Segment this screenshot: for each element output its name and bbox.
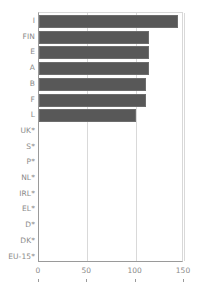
bar-row <box>39 251 182 264</box>
value-tick-label: 100 <box>127 265 141 277</box>
category-label: D* <box>25 218 35 231</box>
tick-mark <box>86 279 87 282</box>
bar-row <box>39 125 182 138</box>
gridline <box>184 13 185 261</box>
value-tick-label: 0 <box>36 265 41 277</box>
bar-row <box>39 141 182 154</box>
bar[interactable] <box>39 109 136 122</box>
bar-chart: IFINEABFLUK*S*P*NL*IRL*EL*D*DK*EU-15* 05… <box>0 0 205 298</box>
plot-area <box>38 12 183 262</box>
bar-row <box>39 46 182 59</box>
bar[interactable] <box>39 31 149 44</box>
category-label: EL* <box>22 202 35 215</box>
category-label: UK* <box>21 124 35 137</box>
value-axis-labels: 050100150 <box>0 265 205 279</box>
bar-row <box>39 15 182 28</box>
tick-mark <box>38 279 39 282</box>
bar-rows <box>39 13 182 261</box>
bar-row <box>39 219 182 232</box>
bar[interactable] <box>39 94 146 107</box>
value-tick-label: 50 <box>82 265 92 277</box>
bar-row <box>39 203 182 216</box>
bar-row <box>39 31 182 44</box>
value-tick-label: 150 <box>176 265 190 277</box>
category-axis-labels: IFINEABFLUK*S*P*NL*IRL*EL*D*DK*EU-15* <box>0 12 35 262</box>
category-label: E <box>30 45 35 58</box>
category-label: S* <box>26 140 35 153</box>
bar-row <box>39 78 182 91</box>
bar[interactable] <box>39 15 178 28</box>
bar-row <box>39 109 182 122</box>
category-label: L <box>31 108 35 121</box>
category-label: I <box>33 14 35 27</box>
category-label: B <box>30 77 35 90</box>
bar-row <box>39 235 182 248</box>
bar-row <box>39 156 182 169</box>
bar[interactable] <box>39 78 146 91</box>
category-label: EU-15* <box>8 250 35 263</box>
category-label: FIN <box>23 30 35 43</box>
bar-row <box>39 188 182 201</box>
category-label: IRL* <box>19 187 35 200</box>
category-label: A <box>30 61 35 74</box>
category-label: P* <box>27 155 35 168</box>
category-label: NL* <box>21 171 35 184</box>
bar-row <box>39 172 182 185</box>
bar-row <box>39 94 182 107</box>
tick-mark <box>135 279 136 282</box>
tick-mark <box>183 279 184 282</box>
category-label: F <box>31 93 35 106</box>
bar-row <box>39 62 182 75</box>
bar[interactable] <box>39 46 149 59</box>
category-label: DK* <box>20 234 35 247</box>
bar[interactable] <box>39 62 149 75</box>
